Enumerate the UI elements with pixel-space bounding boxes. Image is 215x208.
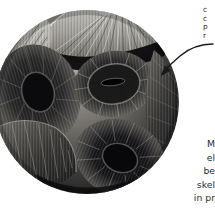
callout-label: c c p r [203, 6, 215, 41]
caption-label: M el be skel in pr [168, 137, 215, 205]
figure-page: c c p r M el be skel in pr [0, 0, 215, 208]
